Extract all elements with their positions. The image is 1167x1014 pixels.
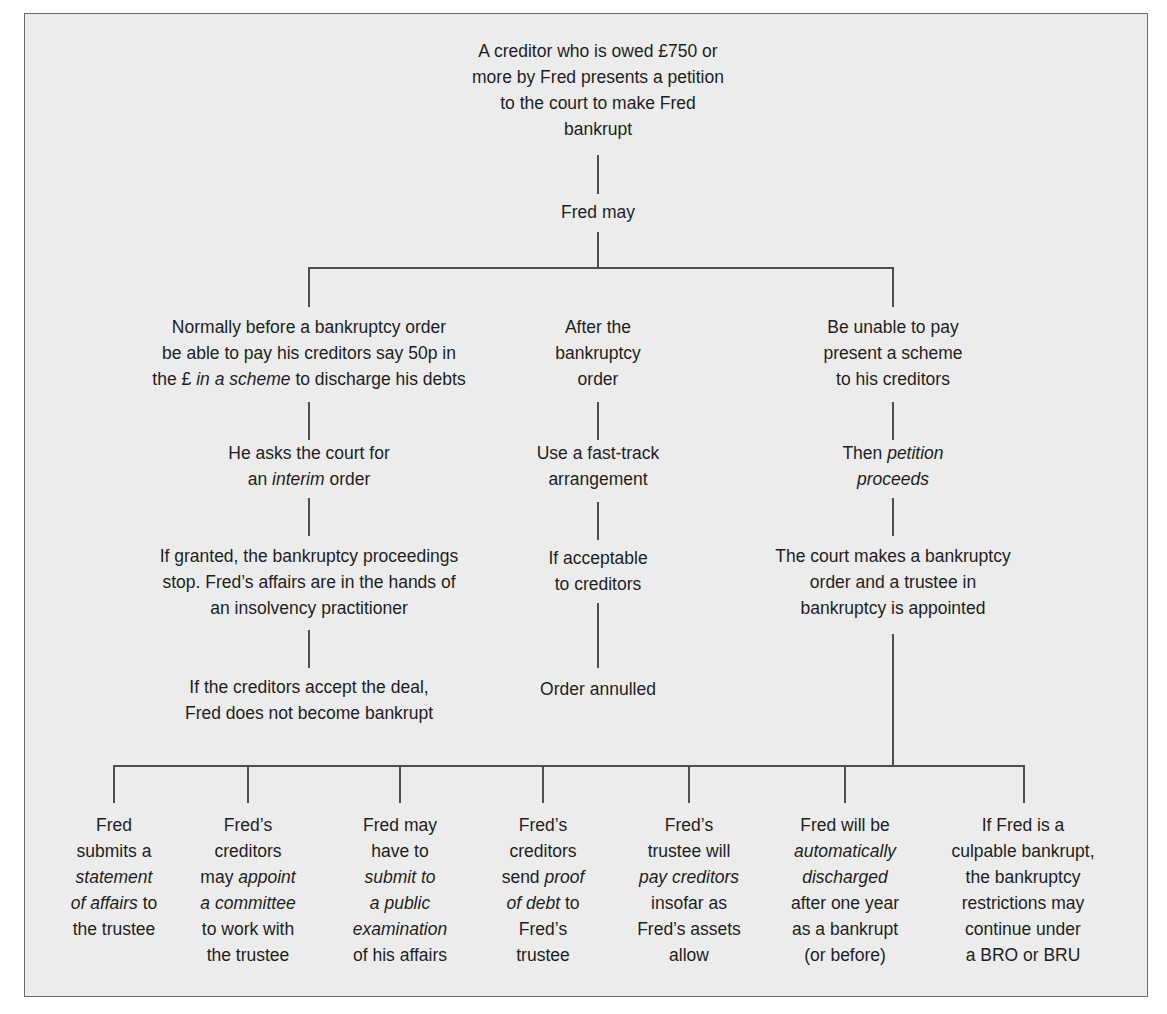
node-line: Normally before a bankruptcy order xyxy=(152,314,465,340)
node-line: If acceptable xyxy=(548,545,647,571)
node-line: Fred does not become bankrupt xyxy=(185,700,433,726)
emphasis-segment: of debt xyxy=(506,893,560,913)
node-line: a committee xyxy=(200,890,295,916)
node-line: If Fred is a xyxy=(951,812,1094,838)
emphasis-segment: petition xyxy=(887,443,943,463)
node-line: Fred’s xyxy=(637,812,741,838)
node-line: an interim order xyxy=(228,466,389,492)
connector-right-1 xyxy=(892,402,894,440)
connector-left-2 xyxy=(308,498,310,536)
emphasis-segment: statement xyxy=(76,867,153,887)
text-segment: send xyxy=(502,867,545,887)
node-line: to his creditors xyxy=(823,366,962,392)
node-line: bankrupt xyxy=(472,116,724,142)
node-line: more by Fred presents a petition xyxy=(472,64,724,90)
node-line: of debt to xyxy=(502,890,585,916)
node-line: Fred’s xyxy=(502,812,585,838)
middle-option-node: After thebankruptcyorder xyxy=(555,314,641,392)
consequence-statement-of-affairs: Fredsubmits astatementof affairs tothe t… xyxy=(71,812,158,942)
emphasis-segment: submit to xyxy=(365,867,436,887)
emphasis-segment: examination xyxy=(353,919,447,939)
consequence-proof-of-debt: Fred’screditorssend proofof debt toFred’… xyxy=(502,812,585,968)
node-line: Fred will be xyxy=(791,812,899,838)
middle-step2-node: If acceptableto creditors xyxy=(548,545,647,597)
emphasis-segment: in a scheme xyxy=(196,369,290,389)
node-line: proceeds xyxy=(842,466,943,492)
node-line: send proof xyxy=(502,864,585,890)
node-line: stop. Fred’s affairs are in the hands of xyxy=(160,569,459,595)
node-line: culpable bankrupt, xyxy=(951,838,1094,864)
node-line: arrangement xyxy=(537,466,660,492)
connector-cons-3 xyxy=(399,765,401,803)
node-line: to work with xyxy=(200,916,295,942)
emphasis-segment: pay creditors xyxy=(639,867,739,887)
consequence-bro-bru: If Fred is aculpable bankrupt,the bankru… xyxy=(951,812,1094,968)
right-step2-node: The court makes a bankruptcyorder and a … xyxy=(775,543,1010,621)
text-segment: an xyxy=(248,469,272,489)
node-line: Fred may xyxy=(353,812,447,838)
node-line: creditors xyxy=(502,838,585,864)
connector-cons-6 xyxy=(844,765,846,803)
connector-cons-4 xyxy=(542,765,544,803)
node-line: may appoint xyxy=(200,864,295,890)
emphasis-segment: automatically xyxy=(794,841,896,861)
node-line: If granted, the bankruptcy proceedings xyxy=(160,543,459,569)
node-line: creditors xyxy=(200,838,295,864)
node-line: an insolvency practitioner xyxy=(160,595,459,621)
text-segment: to xyxy=(560,893,579,913)
node-line: the £ in a scheme to discharge his debts xyxy=(152,366,465,392)
emphasis-segment: discharged xyxy=(802,867,888,887)
node-line: be able to pay his creditors say 50p in xyxy=(152,340,465,366)
node-line: order and a trustee in xyxy=(775,569,1010,595)
connector-cons-7 xyxy=(1023,765,1025,803)
connector-left-3 xyxy=(308,630,310,668)
node-line: He asks the court for xyxy=(228,440,389,466)
node-line: restrictions may xyxy=(951,890,1094,916)
node-line: automatically xyxy=(791,838,899,864)
node-line: pay creditors xyxy=(637,864,741,890)
connector-root-to-fredmay xyxy=(597,155,599,194)
text-segment: to discharge his debts xyxy=(291,369,466,389)
node-line: of affairs to xyxy=(71,890,158,916)
node-line: insofar as xyxy=(637,890,741,916)
text-segment: Then xyxy=(842,443,887,463)
right-step1-node: Then petitionproceeds xyxy=(842,440,943,492)
node-line: Use a fast-track xyxy=(537,440,660,466)
node-line: The court makes a bankruptcy xyxy=(775,543,1010,569)
node-line: the bankruptcy xyxy=(951,864,1094,890)
node-line: of his affairs xyxy=(353,942,447,968)
node-line: continue under xyxy=(951,916,1094,942)
node-line: trustee will xyxy=(637,838,741,864)
consequence-automatic-discharge: Fred will beautomaticallydischargedafter… xyxy=(791,812,899,968)
node-line: the trustee xyxy=(71,916,158,942)
emphasis-segment: interim xyxy=(272,469,325,489)
node-line: discharged xyxy=(791,864,899,890)
consequence-pay-creditors: Fred’strustee willpay creditorsinsofar a… xyxy=(637,812,741,968)
node-line: the trustee xyxy=(200,942,295,968)
connector-cons-1 xyxy=(113,765,115,803)
fred-may-node: Fred may xyxy=(561,199,635,225)
node-line: Fred’s xyxy=(200,812,295,838)
node-line: Be unable to pay xyxy=(823,314,962,340)
consequence-creditors-committee: Fred’screditorsmay appointa committeeto … xyxy=(200,812,295,968)
emphasis-segment: a committee xyxy=(200,893,295,913)
connector-mid-2 xyxy=(597,502,599,540)
node-line: to creditors xyxy=(548,571,647,597)
emphasis-segment: proof xyxy=(544,867,584,887)
node-line: statement xyxy=(71,864,158,890)
node-line: Order annulled xyxy=(540,676,656,702)
connector-right-drop xyxy=(892,267,894,307)
node-line: submit to xyxy=(353,864,447,890)
emphasis-segment: a public xyxy=(370,893,430,913)
root-node: A creditor who is owed £750 ormore by Fr… xyxy=(472,38,724,142)
connector-left-1 xyxy=(308,402,310,440)
connector-right-2 xyxy=(892,498,894,536)
left-step2-node: If granted, the bankruptcy proceedingsst… xyxy=(160,543,459,621)
node-line: as a bankrupt xyxy=(791,916,899,942)
emphasis-segment: of affairs xyxy=(71,893,138,913)
node-line: have to xyxy=(353,838,447,864)
right-option-node: Be unable to paypresent a schemeto his c… xyxy=(823,314,962,392)
connector-fredmay-to-bar xyxy=(597,232,599,269)
connector-cons-5 xyxy=(688,765,690,803)
text-segment: the £ xyxy=(152,369,196,389)
